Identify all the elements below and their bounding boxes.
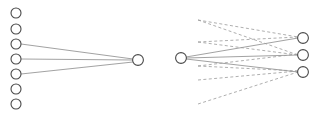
right-graph-edges xyxy=(186,20,298,104)
right-solid-edge-2 xyxy=(186,55,298,58)
left-source-node-6[interactable] xyxy=(11,84,21,94)
left-source-node-1[interactable] xyxy=(11,8,21,18)
left-source-node-2[interactable] xyxy=(11,24,21,34)
left-solid-edge-3 xyxy=(21,62,133,74)
figure-canvas xyxy=(0,0,322,124)
right-dashed-edge-4 xyxy=(198,42,298,55)
left-hub-node[interactable] xyxy=(133,55,144,66)
left-graph-nodes xyxy=(11,8,143,109)
left-source-node-4[interactable] xyxy=(11,54,21,64)
right-dashed-edge-8 xyxy=(198,72,298,104)
right-dashed-edge-2 xyxy=(198,37,298,42)
right-target-node-2[interactable] xyxy=(298,50,309,61)
right-target-node-1[interactable] xyxy=(298,33,309,44)
left-source-node-7[interactable] xyxy=(11,99,21,109)
left-solid-edge-2 xyxy=(21,59,133,60)
graph-diagram xyxy=(0,0,322,124)
right-dashed-edge-3 xyxy=(198,20,298,55)
right-source-node[interactable] xyxy=(176,53,187,64)
left-solid-edge-1 xyxy=(21,44,133,59)
left-graph-edges xyxy=(21,44,133,74)
left-source-node-3[interactable] xyxy=(11,39,21,49)
edges-layer xyxy=(21,20,298,104)
left-source-node-5[interactable] xyxy=(11,69,21,79)
right-target-node-3[interactable] xyxy=(298,67,309,78)
right-dashed-edge-1 xyxy=(198,20,298,37)
right-dashed-edge-7 xyxy=(198,71,298,80)
